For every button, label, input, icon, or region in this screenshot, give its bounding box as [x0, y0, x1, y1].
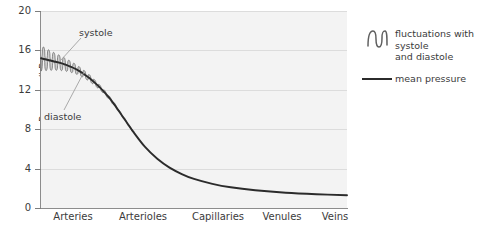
legend-label-fluctuations-line1: fluctuations with systole — [395, 28, 503, 51]
legend-label-mean-pressure: mean pressure — [392, 73, 466, 85]
diastole-leader-line — [64, 72, 84, 110]
chart-figure: Pressure/kPa 20 16 12 8 4 0 Arteries Art… — [0, 0, 503, 232]
systole-leader-line — [61, 38, 81, 60]
wave-icon — [366, 28, 392, 50]
legend-label-fluctuations-line2: and diastole — [395, 51, 503, 63]
legend-item-mean-pressure: mean pressure — [366, 73, 466, 85]
line-swatch-icon — [366, 73, 392, 85]
legend-item-fluctuations: fluctuations with systole and diastole — [366, 28, 503, 63]
blood-pressure-chart: Pressure/kPa 20 16 12 8 4 0 Arteries Art… — [0, 0, 360, 232]
legend: fluctuations with systole and diastole m… — [366, 28, 503, 98]
annotation-systole: systole — [79, 27, 113, 38]
annotation-diastole: diastole — [44, 111, 81, 122]
legend-label-fluctuations: fluctuations with systole and diastole — [392, 28, 503, 63]
